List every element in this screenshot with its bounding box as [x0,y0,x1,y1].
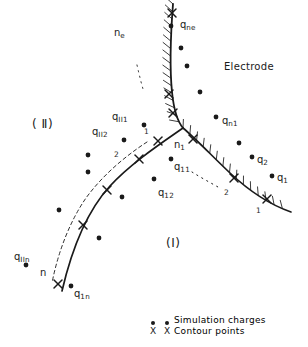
contour-point-marker [154,137,162,145]
dashed-auxiliary-curve [52,142,147,283]
hatch-tick [210,144,211,153]
region-two: ( Ⅱ) [32,118,53,130]
simulation-charge-dot [86,153,91,158]
simulation-charge-dot [250,155,255,160]
hatch-tick [223,157,224,166]
contour-point-marker [54,280,62,288]
index-interface-1: 1 [144,128,149,136]
simulation-charge-dot [237,141,242,146]
simulation-charge-dot [69,284,74,289]
hatch-tick [163,73,171,79]
simulation-charge-dot [57,208,62,213]
charge-qIIn: qIIn [14,252,30,263]
simulation-charge-dot [97,236,102,241]
legend-contour-points: X X Contour points [146,326,245,336]
hatch-tick [216,151,217,160]
charge-qn1: qn1 [222,116,238,127]
x-icon: X [146,326,160,336]
dotted-arc-upper [137,65,143,89]
simulation-charge-dot [198,90,203,95]
charge-q1: q1 [277,173,288,184]
index-right-2: 2 [224,189,229,197]
hatch-tick [163,57,171,63]
index-interface-2: 2 [114,151,119,159]
hatch-tick [190,125,191,134]
contour-points-group [54,9,271,288]
legend-label: Contour points [174,326,245,336]
simulation-charge-dot [214,115,219,120]
simulation-charge-dot [169,157,174,162]
simulation-charge-dot [185,64,190,69]
region-one: (I) [166,237,180,249]
node-ne: ne [114,28,125,39]
interface-left-curve [62,128,183,291]
hatch-tick [203,138,204,147]
x-icon: X [160,326,174,336]
simulation-charge-dot [179,46,184,51]
legend-label: Simulation charges [174,315,266,325]
simulation-charge-dot [169,24,174,29]
hatch-tick [163,50,171,56]
node-n1: n1 [174,140,185,151]
contour-point-marker [135,155,143,163]
hatch-tick [166,0,173,4]
hatch-tick [163,65,171,71]
interface-right-curve-hatching [183,119,291,212]
contour-point-marker [230,174,238,182]
index-right-1: 1 [256,207,261,215]
dotted-arc-lower [192,172,218,187]
simulation-charge-dot [86,170,91,175]
hatch-tick [163,35,171,41]
simulation-charge-dot [270,174,275,179]
hatch-tick [163,42,171,48]
charge-qne: qne [180,20,196,31]
diagram-vector-layer [0,0,308,347]
hatch-tick [163,80,171,85]
charge-q12: q12 [158,188,174,199]
contour-point-marker [103,186,111,194]
node-n: n [40,268,46,278]
charge-qII2: qII2 [92,127,108,138]
hatch-tick [230,164,231,173]
simulation-charge-dot [152,177,157,182]
simulation-charge-dot [120,195,125,200]
charge-q2: q2 [257,155,268,166]
simulation-charge-dot [122,138,127,143]
electrode-label: Electrode [224,62,274,72]
charge-q1n: q1n [74,289,90,300]
charge-q11: q11 [174,162,190,173]
charge-simulation-diagram: ( Ⅱ)(I)Electrodenen1nqneqII1qII2qn1q2q1q… [0,0,308,347]
charge-qII1: qII1 [112,112,128,123]
